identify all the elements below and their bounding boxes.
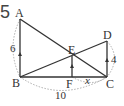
measure-fc: x bbox=[84, 74, 90, 86]
label-c: C bbox=[106, 77, 114, 91]
measure-bc: 10 bbox=[55, 89, 67, 101]
measure-dc: 4 bbox=[111, 53, 117, 65]
label-d: D bbox=[103, 28, 112, 42]
parallel-arrow-icon bbox=[18, 52, 22, 56]
measure-ab: 6 bbox=[10, 42, 16, 54]
label-a: A bbox=[15, 6, 24, 20]
label-e: E bbox=[68, 43, 75, 57]
label-b: B bbox=[12, 76, 20, 90]
label-f: F bbox=[66, 77, 73, 91]
segment-bd bbox=[20, 41, 107, 77]
parallel-arrow-icon bbox=[70, 64, 74, 68]
problem-number: 5 bbox=[0, 2, 10, 22]
segment-ac bbox=[20, 19, 107, 77]
geometry-diagram: 5 A B C D E F 6 4 10 x bbox=[0, 0, 124, 106]
parallel-arrow-icon bbox=[105, 58, 109, 62]
